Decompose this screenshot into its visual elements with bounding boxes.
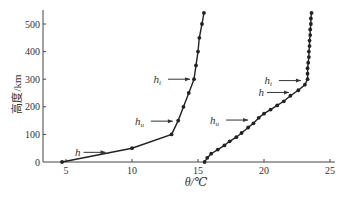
data-point [240, 131, 244, 135]
data-point [246, 126, 250, 130]
data-point [60, 160, 64, 164]
arrow-head-icon [185, 77, 190, 81]
data-point [176, 119, 180, 123]
data-point [202, 11, 206, 15]
annotation-label: hi [154, 73, 162, 87]
x-tick-label: 10 [127, 165, 137, 176]
data-point [307, 55, 311, 59]
data-point [262, 112, 266, 116]
series-layer [60, 11, 313, 164]
y-tick-label: 500 [25, 19, 40, 30]
arrow-head-icon [296, 79, 301, 83]
data-point [308, 28, 312, 32]
annotation-label: hi [264, 74, 272, 88]
data-point [228, 139, 232, 143]
annotation-label: hu [210, 114, 220, 128]
arrow-head-icon [243, 118, 248, 122]
data-point [309, 17, 313, 21]
profile-1-line [62, 13, 204, 162]
axes: 5101520250100200300400500 [25, 10, 335, 176]
data-point [306, 77, 310, 81]
data-point [310, 11, 314, 15]
data-point [308, 33, 312, 37]
data-point [252, 121, 256, 125]
data-point [309, 22, 313, 26]
x-tick-label: 25 [325, 165, 335, 176]
data-point [209, 152, 213, 156]
chart: 5101520250100200300400500 hhuhihuhhi θ/℃… [0, 0, 345, 197]
data-point [289, 94, 293, 98]
data-point [257, 116, 261, 120]
data-point [216, 148, 220, 152]
x-tick-label: 5 [64, 165, 69, 176]
data-point [275, 104, 279, 108]
data-point [205, 156, 209, 160]
data-point [308, 39, 312, 43]
data-point [194, 64, 198, 68]
data-point [306, 72, 310, 76]
annotation-label: hu [135, 115, 145, 129]
annotation-label: h [259, 86, 265, 98]
data-point [182, 105, 186, 109]
annotation-layer: hhuhihuhhi [75, 73, 301, 158]
y-tick-label: 100 [25, 129, 40, 140]
x-tick-label: 20 [259, 165, 269, 176]
y-tick-label: 0 [35, 157, 40, 168]
data-point [308, 44, 312, 48]
data-point [303, 83, 307, 87]
data-point [187, 91, 191, 95]
data-point [203, 160, 207, 164]
y-tick-label: 400 [25, 46, 40, 57]
data-point [282, 99, 286, 103]
data-point [306, 66, 310, 70]
data-point [192, 77, 196, 81]
y-tick-label: 300 [25, 74, 40, 85]
annotation-label: h [75, 146, 81, 158]
data-point [269, 108, 273, 112]
arrow-head-icon [168, 119, 173, 123]
data-point [306, 61, 310, 65]
arrow-head-icon [284, 90, 289, 94]
x-axis-label: θ/℃ [185, 175, 208, 189]
y-axis-label: 高度/km [10, 74, 23, 114]
data-point [200, 22, 204, 26]
data-point [223, 144, 227, 148]
data-point [234, 135, 238, 139]
y-tick-label: 200 [25, 101, 40, 112]
data-point [307, 50, 311, 54]
data-point [197, 36, 201, 40]
data-point [196, 50, 200, 54]
data-point [296, 88, 300, 92]
data-point [170, 133, 174, 137]
data-point [130, 146, 134, 150]
